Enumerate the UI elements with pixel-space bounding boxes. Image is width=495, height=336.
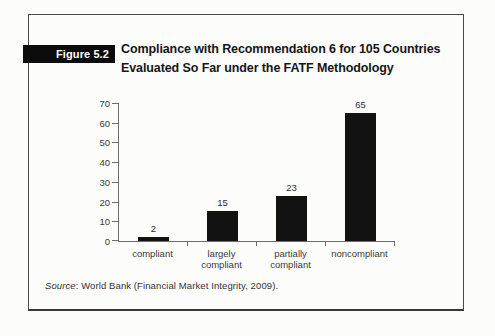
bar [207, 211, 238, 241]
y-tick-label: 10 [99, 217, 110, 226]
bar-value-label: 23 [257, 183, 326, 193]
figure-number-label: Figure 5.2 [56, 48, 109, 60]
y-tick-label: 40 [99, 158, 110, 167]
y-tick-label: 70 [99, 99, 110, 108]
figure-page: Figure 5.2 Compliance with Recommendatio… [0, 0, 495, 336]
y-tick-label: 20 [99, 197, 110, 206]
y-tick-label: 0 [105, 237, 110, 246]
y-axis-labels: 010203040506070 [84, 103, 110, 241]
source-note-label: Source [45, 280, 76, 291]
category-label-text: largely compliant [193, 248, 251, 270]
x-tick-mark [187, 241, 188, 246]
category-label-text: partially compliant [262, 248, 320, 270]
bar [276, 196, 307, 241]
bar [345, 113, 376, 241]
category-label-text: noncompliant [331, 248, 388, 259]
bar-value-label: 2 [119, 224, 188, 234]
y-tick-mark [112, 123, 118, 124]
figure-title: Compliance with Recommendation 6 for 105… [121, 40, 461, 78]
y-tick-mark [112, 202, 118, 203]
bar-value-label: 15 [188, 198, 257, 208]
x-tick-mark [325, 241, 326, 246]
y-tick-mark [112, 162, 118, 163]
x-tick-mark [394, 241, 395, 246]
source-note: Source: World Bank (Financial Market Int… [45, 280, 278, 291]
y-tick-mark [112, 182, 118, 183]
x-tick-mark [256, 241, 257, 246]
figure-title-line1: Compliance with Recommendation 6 for 105… [121, 40, 461, 59]
y-tick-label: 30 [99, 177, 110, 186]
bar-value-label: 65 [326, 100, 395, 110]
bar [138, 237, 169, 241]
y-tick-mark [112, 221, 118, 222]
y-tick-mark [112, 240, 118, 241]
y-tick-label: 60 [99, 118, 110, 127]
y-tick-mark [112, 103, 118, 104]
y-tick-mark [112, 142, 118, 143]
category-label-text: compliant [132, 248, 173, 259]
category-label: noncompliant [325, 248, 394, 259]
source-note-text: : World Bank (Financial Market Integrity… [76, 280, 278, 291]
category-label: largely compliant [187, 248, 256, 270]
category-label: compliant [118, 248, 187, 259]
figure-title-line2: Evaluated So Far under the FATF Methodol… [121, 59, 461, 78]
x-axis-labels: compliantlargely compliantpartially comp… [118, 248, 394, 274]
plot-area: 2152365 [118, 103, 395, 242]
category-label: partially compliant [256, 248, 325, 270]
y-tick-label: 50 [99, 138, 110, 147]
figure-number-badge: Figure 5.2 [23, 45, 115, 63]
